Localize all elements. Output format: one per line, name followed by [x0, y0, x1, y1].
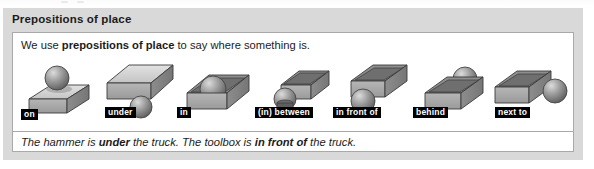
intro-text-after: to say where something is. — [174, 39, 310, 51]
figure-label: (in) between — [255, 107, 313, 118]
section-divider — [13, 131, 573, 132]
intro-text-bold: prepositions of place — [62, 39, 175, 51]
example-part3: the truck. — [307, 136, 356, 148]
figure-in-front-of: in front of — [333, 59, 413, 125]
scan-smudge — [61, 1, 68, 3]
figure-behind: behind — [411, 59, 491, 125]
figure-next-to: next to — [489, 59, 569, 125]
figure-on: on — [21, 59, 101, 125]
page-title: Prepositions of place — [12, 13, 131, 25]
scan-smudge — [77, 1, 84, 3]
content-card: We use prepositions of place to say wher… — [12, 32, 574, 152]
page-background — [0, 160, 594, 169]
figure-label: in front of — [333, 107, 381, 118]
prepositions-panel: Prepositions of place We use preposition… — [3, 8, 583, 160]
example-part2: the truck. The toolbox is — [130, 136, 255, 148]
figure-label: in — [177, 107, 191, 118]
figure-in-between: (in) between — [255, 59, 335, 125]
example-bold2: in front of — [255, 136, 307, 148]
figure-label: under — [105, 107, 136, 118]
figure-label: next to — [495, 107, 530, 118]
figure-label: behind — [413, 107, 448, 118]
figure-under: under — [99, 59, 179, 125]
scan-artifact-strip — [0, 0, 594, 6]
intro-sentence: We use prepositions of place to say wher… — [21, 39, 310, 51]
figure-label: on — [21, 109, 38, 120]
figure-in: in — [177, 59, 257, 125]
example-sentence: The hammer is under the truck. The toolb… — [21, 136, 356, 148]
figure-strip: on under — [13, 59, 573, 125]
example-bold1: under — [99, 136, 130, 148]
example-part1: The hammer is — [21, 136, 99, 148]
intro-text-before: We use — [21, 39, 62, 51]
